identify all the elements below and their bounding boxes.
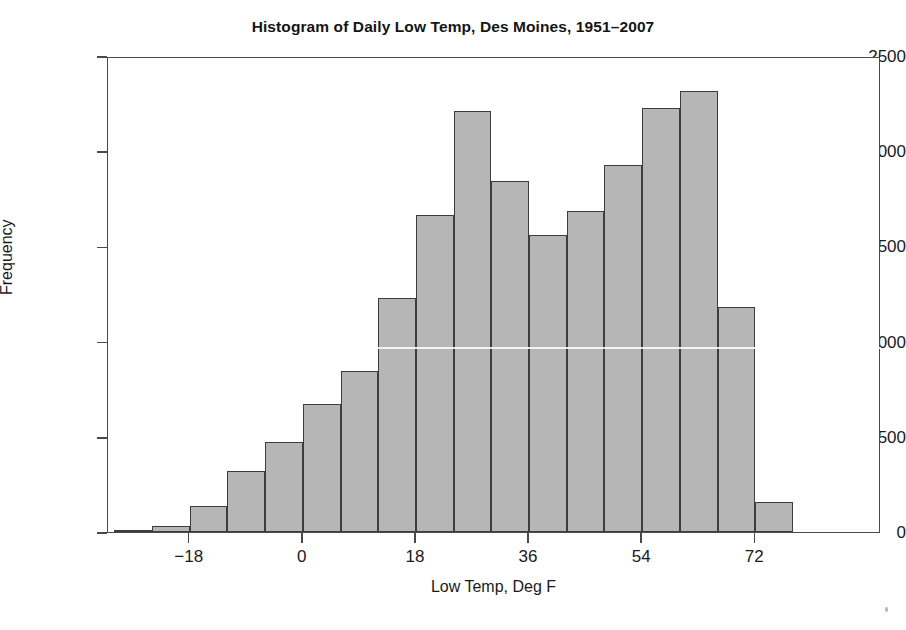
histogram-bar [227,471,265,532]
x-axis-tick-mark [188,533,190,543]
histogram-figure: Histogram of Daily Low Temp, Des Moines,… [0,0,906,630]
scan-speck [885,607,888,612]
x-axis-tick-mark [414,533,416,543]
x-axis-tick-label: −18 [149,547,229,567]
y-axis-tick-mark [97,247,107,249]
histogram-bar [152,526,190,532]
plot-frame [107,57,880,533]
histogram-bar [190,506,228,532]
x-axis-tick-mark [754,533,756,543]
histogram-bar [718,307,756,532]
y-axis-tick-mark [97,151,107,153]
histogram-bar [567,211,605,532]
x-axis-tick-mark [527,533,529,543]
histogram-bar [604,165,642,532]
plot-area [108,58,879,532]
x-axis-tick-label: 72 [714,547,794,567]
histogram-bar [680,91,718,532]
x-axis-tick-label: 36 [488,547,568,567]
histogram-bar [341,371,379,532]
y-axis-title: Frequency [0,95,16,295]
x-axis-tick-mark [301,533,303,543]
x-axis-title: Low Temp, Deg F [107,578,880,596]
histogram-bar [529,235,567,532]
histogram-bar [416,215,454,532]
x-axis-tick-label: 0 [262,547,342,567]
histogram-bar [378,298,416,532]
histogram-bar [755,502,793,532]
histogram-bar [303,404,341,532]
x-axis-tick-mark [640,533,642,543]
x-axis-tick-label: 54 [601,547,681,567]
x-axis-tick-label: 18 [375,547,455,567]
y-axis-tick-mark [97,437,107,439]
histogram-bar [642,108,680,532]
histogram-bar [491,181,529,532]
histogram-bar [114,530,152,532]
chart-title: Histogram of Daily Low Temp, Des Moines,… [0,18,906,36]
y-axis-tick-mark [97,532,107,534]
y-axis-tick-mark [97,56,107,58]
histogram-bar [265,442,303,532]
y-axis-tick-mark [97,342,107,344]
histogram-bar [454,111,492,532]
